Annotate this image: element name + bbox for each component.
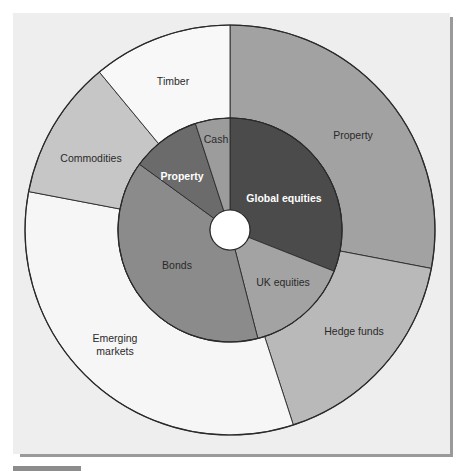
label-bonds: Bonds	[162, 259, 192, 271]
center-hole	[210, 210, 250, 250]
label-commodities: Commodities	[60, 152, 121, 164]
label-global-equities: Global equities	[246, 192, 321, 204]
label-hedge-funds: Hedge funds	[324, 325, 384, 337]
label-emerging-line1: Emerging	[93, 332, 138, 344]
label-inner-property: Property	[160, 170, 203, 182]
label-uk-equities: UK equities	[256, 276, 310, 288]
donut-chart: Property Hedge funds Emerging markets Co…	[0, 0, 466, 471]
label-cash: Cash	[204, 133, 229, 145]
label-emerging-line2: markets	[96, 345, 133, 357]
label-timber: Timber	[157, 75, 190, 87]
label-outer-property: Property	[333, 129, 373, 141]
